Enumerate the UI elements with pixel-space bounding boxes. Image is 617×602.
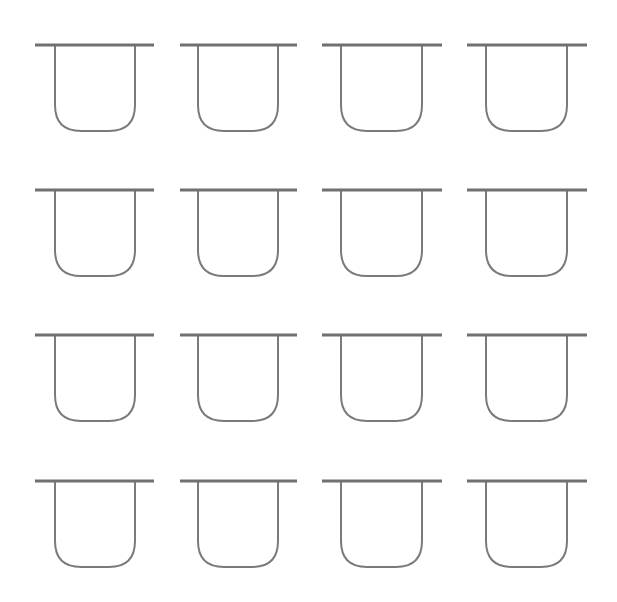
cup-shape-r3-c4 — [467, 335, 587, 421]
cup-shape-r3-c3 — [322, 335, 442, 421]
cup-outline — [486, 335, 567, 421]
cup-outline — [486, 481, 567, 567]
cup-shape-r1-c4 — [467, 45, 587, 131]
cup-outline — [198, 190, 278, 276]
cup-outline — [198, 45, 278, 131]
cup-outline — [341, 190, 422, 276]
cup-shape-r3-c2 — [180, 335, 297, 421]
cup-shape-r2-c4 — [467, 190, 587, 276]
cup-shape-r4-c3 — [322, 481, 442, 567]
cup-shape-r3-c1 — [35, 335, 154, 421]
cup-shape-r2-c1 — [35, 190, 154, 276]
cup-outline — [486, 45, 567, 131]
cup-outline — [486, 190, 567, 276]
cup-outline — [341, 481, 422, 567]
cup-outline — [55, 335, 135, 421]
cup-shape-r1-c3 — [322, 45, 442, 131]
cup-shape-r4-c4 — [467, 481, 587, 567]
cup-shape-r4-c1 — [35, 481, 154, 567]
cup-shape-r1-c1 — [35, 45, 154, 131]
cup-outline — [55, 45, 135, 131]
cup-outline — [198, 481, 278, 567]
cup-shape-r2-c2 — [180, 190, 297, 276]
cup-shape-r4-c2 — [180, 481, 297, 567]
cup-outline — [341, 335, 422, 421]
cup-outline — [55, 481, 135, 567]
cup-outline — [341, 45, 422, 131]
cup-grid-canvas — [0, 0, 617, 602]
cup-shape-r1-c2 — [180, 45, 297, 131]
cup-outline — [198, 335, 278, 421]
cup-shape-r2-c3 — [322, 190, 442, 276]
cup-outline — [55, 190, 135, 276]
